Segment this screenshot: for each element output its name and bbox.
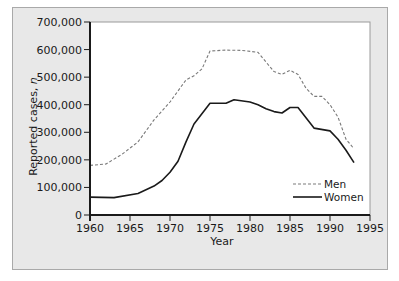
y-tick-label: 200,000	[37, 154, 83, 167]
x-tick-label: 1995	[356, 222, 384, 235]
x-tick-label: 1965	[116, 222, 144, 235]
x-tick-label: 1970	[156, 222, 184, 235]
x-tick-label: 1975	[196, 222, 224, 235]
y-tick-label: 0	[75, 209, 82, 222]
x-tick-label: 1985	[276, 222, 304, 235]
y-tick-label: 300,000	[37, 126, 83, 139]
legend-women-label: Women	[324, 191, 364, 203]
x-axis-ticks: 19601965197019751980198519901995	[76, 215, 384, 235]
y-tick-label: 600,000	[37, 44, 83, 57]
y-tick-label: 100,000	[37, 181, 83, 194]
y-axis-title: Reported cases, n	[27, 77, 40, 176]
x-tick-label: 1960	[76, 222, 104, 235]
x-tick-label: 1980	[236, 222, 264, 235]
y-tick-label: 400,000	[37, 99, 83, 112]
line-chart: 0100,000200,000300,000400,000500,000600,…	[0, 0, 399, 281]
x-tick-label: 1990	[316, 222, 344, 235]
x-axis-title: Year	[209, 235, 234, 248]
y-tick-label: 700,000	[37, 16, 83, 29]
legend-men-label: Men	[324, 178, 346, 190]
y-axis-ticks: 0100,000200,000300,000400,000500,000600,…	[37, 16, 91, 222]
y-tick-label: 500,000	[37, 71, 83, 84]
